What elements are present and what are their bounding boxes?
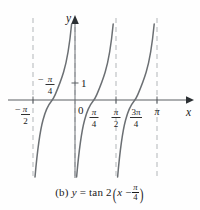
svg-text:π: π [114, 107, 119, 117]
caption-paren-close: ) [140, 186, 144, 204]
svg-text:2: 2 [23, 116, 28, 126]
svg-text:3π: 3π [131, 107, 141, 117]
svg-text:−: − [38, 74, 44, 85]
y-tick-label-one: 1 [81, 77, 87, 89]
x-axis-label: x [185, 106, 192, 118]
svg-text:2: 2 [114, 119, 119, 129]
caption-fraction-denominator: 4 [132, 193, 139, 202]
x-axis-arrow-icon [186, 96, 194, 104]
svg-text:π: π [23, 104, 28, 114]
caption-part-label: (b) [55, 186, 68, 198]
tick-label-three-pi-over-4: 3π 4 [130, 107, 142, 129]
svg-text:4: 4 [92, 119, 97, 129]
caption-part-minus: − [125, 186, 131, 198]
svg-text:π: π [48, 74, 53, 84]
figure-container: y x 0 1 − π 2 − π 4 π 4 π 2 [0, 0, 200, 210]
x-axis [8, 96, 194, 104]
caption-part-variable: x [117, 186, 122, 198]
tick-label-pi-over-4: π 4 [90, 107, 99, 129]
svg-text:−: − [15, 104, 21, 115]
tangent-function-plot: y x 0 1 − π 2 − π 4 π 4 π 2 [0, 0, 200, 185]
figure-caption: (b) y = tan 2(x −π4) [0, 183, 200, 204]
svg-text:4: 4 [48, 86, 53, 96]
tick-label-pi: π [154, 106, 160, 117]
svg-text:π: π [154, 106, 160, 117]
tick-label-neg-pi-over-2: − π 2 [15, 104, 30, 126]
caption-fraction: π4 [132, 183, 139, 202]
y-axis-label: y [65, 12, 72, 25]
tick-label-neg-pi-over-4: − π 4 [38, 74, 55, 96]
caption-part-function: tan 2 [89, 186, 112, 198]
svg-text:π: π [92, 107, 97, 117]
y-axis-arrow-icon [71, 15, 79, 24]
caption-paren-open: ( [113, 186, 117, 204]
origin-label: 0 [78, 104, 84, 116]
svg-text:4: 4 [134, 119, 139, 129]
y-axis [71, 15, 79, 178]
caption-part-lhs: y [72, 186, 77, 198]
caption-part-equals: = [80, 186, 86, 198]
